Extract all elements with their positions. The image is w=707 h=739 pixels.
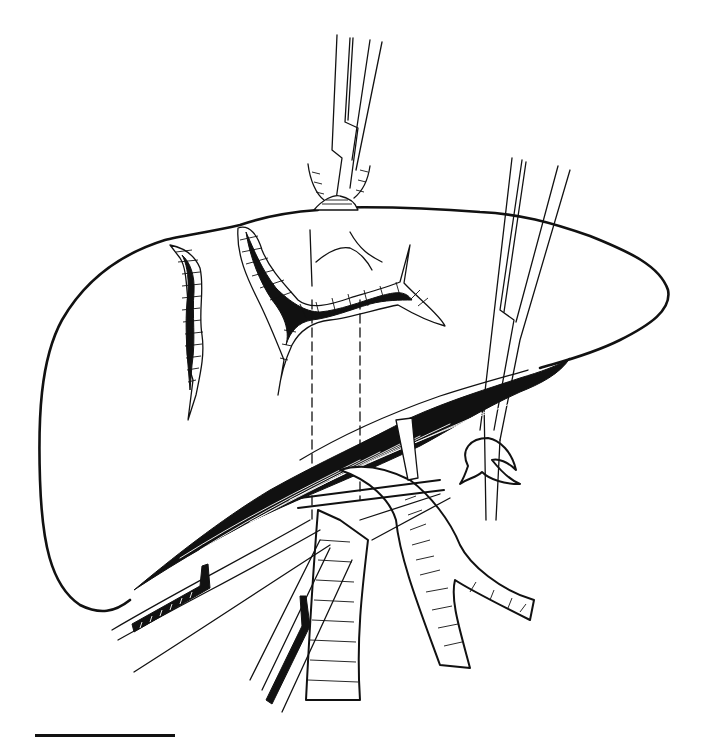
surface-detail <box>310 230 382 286</box>
liver-surgery-illustration <box>0 0 707 739</box>
forceps-top <box>308 35 382 210</box>
laceration-left <box>170 245 203 420</box>
scale-bar <box>35 734 175 737</box>
laceration-center <box>238 227 445 395</box>
vena-cava <box>306 510 368 700</box>
